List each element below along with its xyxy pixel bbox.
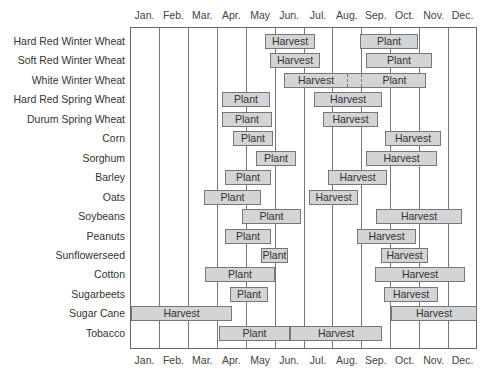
crop-label: Soft Red Winter Wheat: [18, 54, 125, 66]
month-label: Apr.: [217, 9, 246, 21]
month-label: Mar.: [188, 354, 217, 366]
harvest-bar: Harvest: [381, 248, 428, 263]
plant-bar: Plant: [230, 287, 268, 302]
month-label: Nov.: [419, 354, 448, 366]
crop-label: Sugar Cane: [69, 307, 125, 319]
harvest-bar: Harvest: [357, 229, 416, 244]
crop-label: Hard Red Spring Wheat: [14, 93, 125, 105]
crop-label: Hard Red Winter Wheat: [14, 35, 125, 47]
month-gridline: [188, 27, 189, 349]
month-label: Sep.: [361, 9, 390, 21]
harvest-bar: Harvest: [328, 170, 387, 185]
plant-bar: Plant: [261, 248, 288, 263]
month-label: May: [246, 9, 275, 21]
month-label: Jan.: [130, 354, 159, 366]
month-label: Nov.: [419, 9, 448, 21]
overlap-dash: [361, 74, 362, 87]
crop-label: Durum Spring Wheat: [27, 113, 125, 125]
harvest-bar: Harvest: [385, 131, 441, 146]
crop-label: Cotton: [94, 268, 125, 280]
crop-label: Barley: [95, 171, 125, 183]
crop-label: Peanuts: [86, 230, 125, 242]
month-label: Jan.: [130, 9, 159, 21]
harvest-bar: Harvest: [376, 209, 462, 224]
harvest-bar: Harvest: [323, 112, 378, 127]
harvest-bar: Harvest: [270, 53, 320, 68]
crop-label: Sugarbeets: [71, 288, 125, 300]
crop-label: Corn: [102, 132, 125, 144]
plant-bar: Plant: [205, 267, 275, 282]
harvest-bar: Harvest: [391, 306, 477, 321]
month-label: Jun.: [275, 354, 304, 366]
month-label: Apr.: [217, 354, 246, 366]
plant-bar: Plant: [360, 34, 418, 49]
month-gridline: [159, 27, 160, 349]
plant-bar: Plant: [219, 326, 290, 341]
month-label: Jul.: [304, 9, 333, 21]
plant-bar: Plant: [233, 131, 273, 146]
crop-label: Tobacco: [86, 327, 125, 339]
month-label: May: [246, 354, 275, 366]
plant-bar: Plant: [242, 209, 301, 224]
month-gridline: [275, 27, 276, 349]
crop-label: Sunflowerseed: [56, 249, 125, 261]
crop-label: White Winter Wheat: [32, 74, 125, 86]
harvest-bar: Harvest: [309, 190, 358, 205]
harvest-bar: Harvest: [314, 92, 382, 107]
month-label: Sep.: [361, 354, 390, 366]
harvest-bar: Harvest: [290, 326, 382, 341]
month-gridline: [448, 27, 449, 349]
month-label: Aug.: [332, 9, 361, 21]
crop-label: Oats: [103, 191, 125, 203]
month-label: Aug.: [332, 354, 361, 366]
harvest-bar: Harvest: [131, 306, 232, 321]
crop-label: Sorghum: [82, 152, 125, 164]
month-gridline: [217, 27, 218, 349]
month-label: Mar.: [188, 9, 217, 21]
plant-bar: Plant: [225, 170, 271, 185]
month-label: Feb.: [159, 354, 188, 366]
plant-bar: Plant: [256, 151, 296, 166]
crop-label: Soybeans: [78, 210, 125, 222]
plant-bar: Plant: [204, 190, 261, 205]
month-label: Oct.: [390, 354, 419, 366]
plant-bar: Plant: [222, 112, 272, 127]
bar-label: Harvest: [285, 74, 347, 87]
bar-combined: HarvestPlant: [284, 73, 426, 88]
harvest-bar: Harvest: [366, 151, 437, 166]
plant-bar: Plant: [366, 53, 432, 68]
month-label: Dec.: [448, 9, 477, 21]
overlap-dash: [347, 74, 348, 87]
plant-bar: Plant: [225, 229, 271, 244]
month-label: Feb.: [159, 9, 188, 21]
plant-bar: Plant: [222, 92, 270, 107]
month-label: Oct.: [390, 9, 419, 21]
month-label: Jun.: [275, 9, 304, 21]
month-label: Jul.: [304, 354, 333, 366]
bar-label: Plant: [362, 74, 426, 87]
month-label: Dec.: [448, 354, 477, 366]
harvest-bar: Harvest: [375, 267, 465, 282]
harvest-bar: Harvest: [265, 34, 315, 49]
harvest-bar: Harvest: [384, 287, 438, 302]
